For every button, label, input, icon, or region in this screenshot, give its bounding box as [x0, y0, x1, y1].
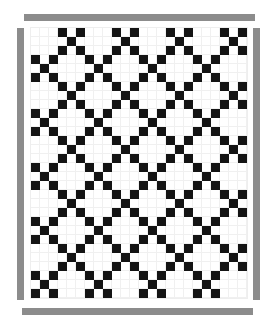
quilt-square-light — [193, 46, 202, 55]
quilt-square-light — [238, 226, 247, 235]
quilt-square-dark — [40, 226, 49, 235]
quilt-square-dark — [238, 262, 247, 271]
quilt-square-light — [202, 163, 211, 172]
quilt-square-dark — [211, 109, 220, 118]
quilt-square-dark — [220, 100, 229, 109]
quilt-square-light — [76, 127, 85, 136]
quilt-square-light — [85, 136, 94, 145]
quilt-square-dark — [175, 199, 184, 208]
quilt-square-dark — [58, 190, 67, 199]
quilt-square-light — [175, 73, 184, 82]
quilt-square-light — [193, 262, 202, 271]
quilt-square-light — [184, 37, 193, 46]
quilt-square-light — [76, 271, 85, 280]
quilt-square-dark — [238, 46, 247, 55]
quilt-square-dark — [103, 181, 112, 190]
quilt-square-light — [67, 244, 76, 253]
quilt-square-light — [148, 127, 157, 136]
quilt-square-dark — [184, 136, 193, 145]
quilt-square-light — [40, 82, 49, 91]
quilt-square-light — [49, 37, 58, 46]
quilt-square-light — [40, 37, 49, 46]
quilt-square-light — [85, 145, 94, 154]
quilt-square-light — [130, 289, 139, 298]
quilt-square-light — [58, 280, 67, 289]
quilt-square-light — [103, 64, 112, 73]
quilt-square-dark — [229, 37, 238, 46]
quilt-square-light — [121, 208, 130, 217]
quilt-square-light — [40, 163, 49, 172]
quilt-square-light — [184, 253, 193, 262]
quilt-square-light — [40, 208, 49, 217]
quilt-square-light — [175, 118, 184, 127]
quilt-square-dark — [211, 163, 220, 172]
quilt-square-light — [139, 226, 148, 235]
quilt-square-dark — [112, 136, 121, 145]
quilt-square-dark — [211, 127, 220, 136]
quilt-square-light — [112, 235, 121, 244]
quilt-square-light — [211, 253, 220, 262]
quilt-square-light — [202, 46, 211, 55]
quilt-square-light — [76, 109, 85, 118]
quilt-square-dark — [175, 145, 184, 154]
quilt-square-light — [94, 28, 103, 37]
quilt-square-light — [175, 136, 184, 145]
quilt-square-light — [157, 253, 166, 262]
quilt-square-light — [112, 271, 121, 280]
quilt-square-dark — [76, 136, 85, 145]
quilt-square-light — [49, 145, 58, 154]
quilt-square-light — [103, 226, 112, 235]
quilt-square-dark — [220, 208, 229, 217]
quilt-square-dark — [103, 289, 112, 298]
quilt-square-dark — [220, 82, 229, 91]
quilt-square-dark — [139, 163, 148, 172]
quilt-square-light — [184, 145, 193, 154]
quilt-square-light — [94, 46, 103, 55]
quilt-square-dark — [166, 190, 175, 199]
quilt-square-light — [184, 127, 193, 136]
quilt-square-light — [94, 190, 103, 199]
quilt-square-light — [103, 28, 112, 37]
quilt-square-dark — [31, 181, 40, 190]
quilt-square-light — [94, 100, 103, 109]
quilt-square-dark — [49, 217, 58, 226]
quilt-square-light — [40, 28, 49, 37]
quilt-square-dark — [229, 199, 238, 208]
quilt-square-dark — [112, 46, 121, 55]
quilt-square-light — [31, 100, 40, 109]
quilt-square-dark — [103, 73, 112, 82]
quilt-square-light — [130, 217, 139, 226]
quilt-square-light — [31, 280, 40, 289]
quilt-square-dark — [31, 73, 40, 82]
quilt-square-light — [139, 190, 148, 199]
quilt-square-dark — [238, 244, 247, 253]
quilt-square-dark — [238, 190, 247, 199]
quilt-square-dark — [193, 181, 202, 190]
quilt-square-light — [85, 262, 94, 271]
quilt-square-dark — [157, 109, 166, 118]
quilt-square-light — [148, 208, 157, 217]
quilt-square-light — [40, 145, 49, 154]
quilt-square-dark — [211, 55, 220, 64]
quilt-square-light — [202, 109, 211, 118]
quilt-square-light — [130, 181, 139, 190]
quilt-square-light — [193, 82, 202, 91]
quilt-square-light — [139, 253, 148, 262]
quilt-square-dark — [112, 82, 121, 91]
quilt-square-light — [193, 208, 202, 217]
quilt-square-light — [148, 271, 157, 280]
quilt-square-dark — [85, 271, 94, 280]
quilt-square-light — [130, 109, 139, 118]
quilt-square-light — [148, 163, 157, 172]
quilt-square-dark — [49, 163, 58, 172]
quilt-square-light — [121, 235, 130, 244]
quilt-square-light — [103, 199, 112, 208]
quilt-square-light — [238, 118, 247, 127]
quilt-square-light — [193, 172, 202, 181]
quilt-square-dark — [121, 253, 130, 262]
quilt-square-light — [229, 244, 238, 253]
quilt-square-light — [85, 253, 94, 262]
quilt-square-light — [67, 73, 76, 82]
quilt-square-light — [139, 82, 148, 91]
quilt-square-light — [229, 271, 238, 280]
